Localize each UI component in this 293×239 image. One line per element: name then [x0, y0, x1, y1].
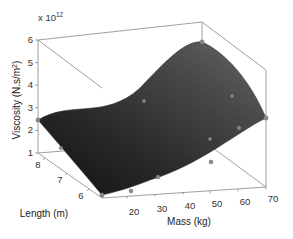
x-tick-70: 70 — [268, 193, 279, 204]
y-tick-6: 6 — [78, 190, 83, 201]
z-tick-2: 2 — [28, 124, 33, 135]
y-tick-7: 7 — [57, 174, 62, 185]
x-tick-50: 50 — [212, 198, 223, 209]
z-tick-6: 6 — [28, 34, 33, 45]
z-exponent-label: x 1012 — [38, 11, 64, 23]
z-tick-3: 3 — [28, 102, 33, 113]
z-tick-4: 4 — [28, 79, 33, 90]
x-tick-60: 60 — [240, 196, 251, 207]
z-axis-label: Viscosity (N.s/m2) — [11, 61, 22, 140]
viscosity-surface — [36, 40, 268, 197]
z-tick-5: 5 — [28, 57, 33, 68]
x-tick-40: 40 — [185, 200, 196, 211]
z-tick-1: 1 — [28, 147, 33, 158]
x-tick-30: 30 — [157, 203, 168, 214]
x-axis-label: Mass (kg) — [167, 216, 211, 227]
surface-plot: 6 5 4 3 2 1 x 1012 Viscosity (N.s/m2) 8 … — [0, 0, 293, 239]
y-tick-8: 8 — [35, 159, 40, 170]
y-axis-label: Length (m) — [20, 208, 68, 219]
x-tick-20: 20 — [129, 206, 140, 217]
x-axis: 20 30 40 50 60 70 Mass (kg) — [127, 187, 278, 227]
